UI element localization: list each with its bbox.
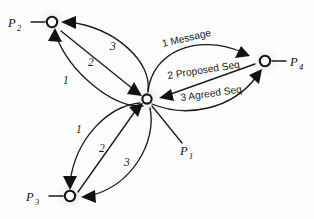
node-label-p3-base: P xyxy=(25,190,34,204)
node-label-p2: P 2 xyxy=(7,16,22,33)
edge-label-p2-2: 2 xyxy=(88,56,94,68)
message-label-2: 2 Proposed Seq xyxy=(167,59,241,81)
edge-label-p2-3: 3 xyxy=(109,40,116,52)
node-label-p4-base: P xyxy=(289,55,298,69)
node-label-p2-sub: 2 xyxy=(17,23,22,33)
diagram-canvas: P 2 P 3 P 4 P 1 1 2 3 1 2 3 xyxy=(0,0,314,219)
node-label-p1-base: P xyxy=(179,144,188,158)
edge-p3-1-path xyxy=(70,103,140,182)
node-label-p1-sub: 1 xyxy=(189,151,193,161)
node-p3-circle[interactable] xyxy=(65,191,75,201)
message-label-group: 1 Message 2 Proposed Seq 3 Agreed Seq xyxy=(161,27,243,103)
edge-label-p3-3: 3 xyxy=(123,156,130,168)
node-label-p3-sub: 3 xyxy=(34,197,39,207)
edge-p2-2-path xyxy=(61,31,133,89)
leader-p1 xyxy=(152,106,182,143)
edge-group-p1-p4 xyxy=(148,45,262,111)
diagram-svg: P 2 P 3 P 4 P 1 1 2 3 1 2 3 xyxy=(0,0,314,219)
node-label-p1: P 1 xyxy=(179,144,193,161)
node-p4-circle[interactable] xyxy=(260,56,270,66)
edge-p2-3-path xyxy=(69,22,148,91)
message-label-3: 3 Agreed Seq xyxy=(180,83,243,103)
node-label-p2-base: P xyxy=(7,16,16,30)
node-p2-circle[interactable] xyxy=(47,17,57,27)
edge-label-p3-2: 2 xyxy=(99,142,105,154)
edge-p3-2-path xyxy=(78,110,136,192)
node-p1-circle[interactable] xyxy=(142,94,151,103)
node-label-p3: P 3 xyxy=(25,190,39,207)
edge-label-p3-1: 1 xyxy=(76,123,82,135)
edge-label-p2-1: 1 xyxy=(63,74,69,86)
edge-p4-1-arrowhead xyxy=(235,46,250,58)
message-label-1: 1 Message xyxy=(161,27,212,49)
node-label-p4-sub: 4 xyxy=(299,62,304,72)
node-label-p4: P 4 xyxy=(289,55,304,72)
